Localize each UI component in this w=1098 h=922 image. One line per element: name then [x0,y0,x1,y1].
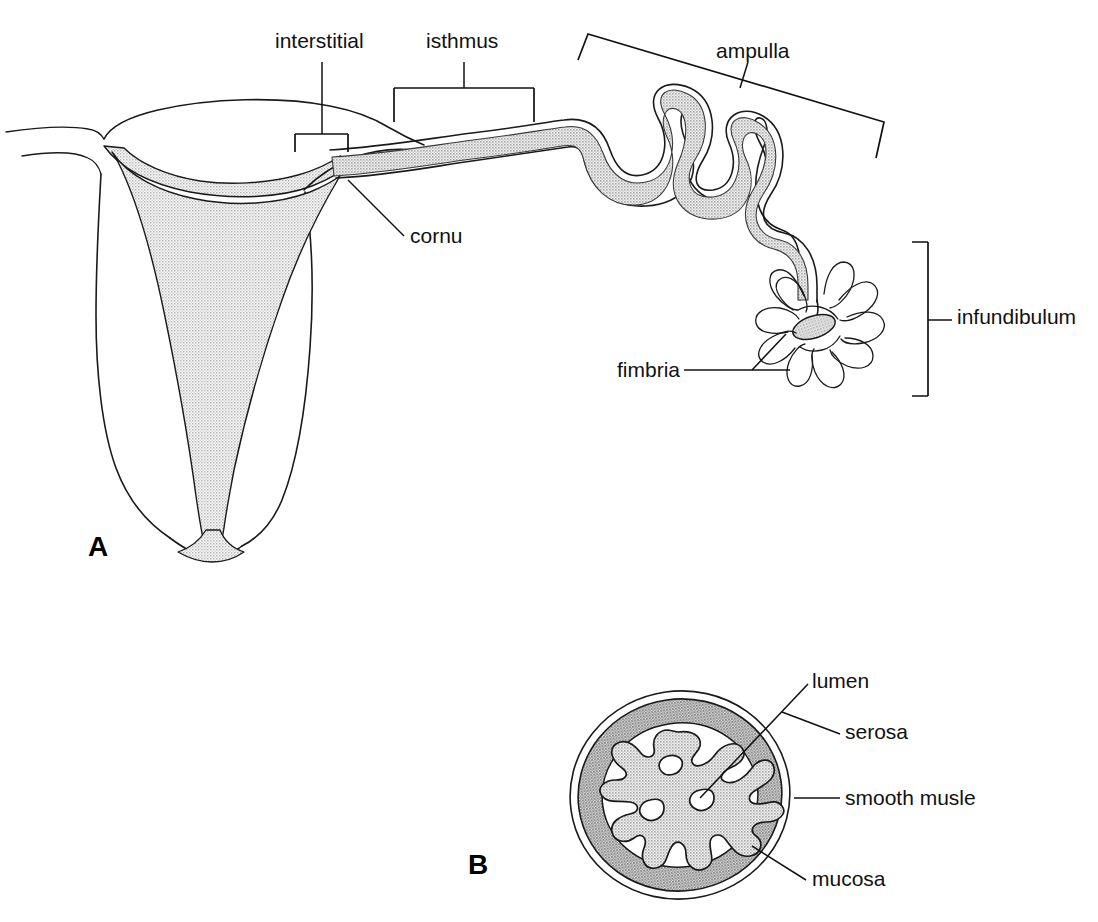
oviduct-mucosa-band [332,90,808,300]
label-infundibulum: infundibulum [957,305,1076,328]
pointer-fimbria [684,334,790,370]
pointer-interstitial [295,62,348,152]
broad-ligament-lower-line [22,153,101,174]
label-fimbria: fimbria [617,358,680,381]
panel-letter-b: B [468,849,488,880]
pointer-cornu [348,180,404,236]
broad-ligament-upper-line [6,127,104,139]
label-cornu: cornu [410,224,463,247]
label-smooth-muscle: smooth musle [845,786,976,809]
abdominal-ostium [790,310,839,345]
label-mucosa: mucosa [812,867,886,890]
panel-b-drawing [557,677,840,914]
uterine-horn-outline [104,100,424,145]
label-serosa: serosa [845,720,908,743]
label-isthmus: isthmus [426,29,498,52]
figure-root: interstitial isthmus ampulla cornu infun… [0,0,1098,922]
panel-letter-a: A [88,531,108,562]
label-ampulla: ampulla [716,39,790,62]
cervical-os-stipple [178,530,244,562]
fimbriae-group [756,262,885,388]
pointer-serosa [782,712,840,734]
anatomy-figure: interstitial isthmus ampulla cornu infun… [0,0,1098,922]
pointer-isthmus [394,62,534,122]
label-lumen: lumen [812,669,869,692]
label-interstitial: interstitial [275,29,364,52]
panel-a-drawing [6,34,952,562]
pointer-infundibulum [912,242,952,396]
uterine-cavity-stipple [112,152,340,552]
